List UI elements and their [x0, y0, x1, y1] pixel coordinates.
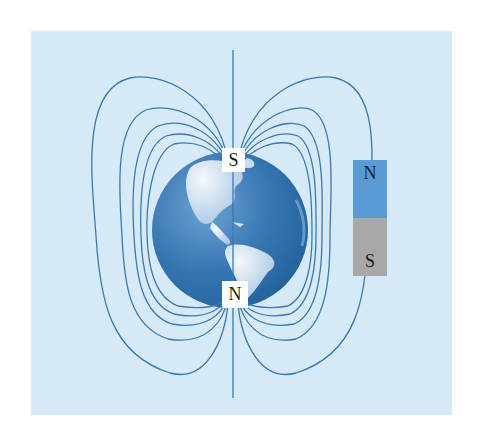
bar-magnet-north: N [353, 160, 387, 218]
bar-magnet: N S [353, 160, 387, 276]
field-diagram [0, 0, 478, 442]
earth-bottom-pole-label: N [222, 281, 248, 308]
earth-top-pole-label: S [222, 148, 245, 172]
bar-magnet-north-label: N [364, 163, 377, 183]
bar-magnet-south-label: S [365, 251, 375, 271]
bar-magnet-south: S [353, 218, 387, 276]
